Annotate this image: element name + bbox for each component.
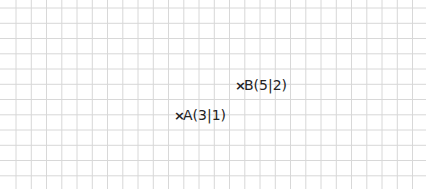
point-b-label: B(5|2) <box>244 78 287 92</box>
point-a-label: A(3|1) <box>183 108 226 122</box>
grid-canvas <box>0 0 426 189</box>
